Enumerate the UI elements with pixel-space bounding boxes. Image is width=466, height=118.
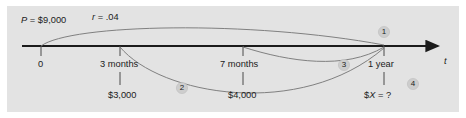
badge-label-1: 1	[379, 28, 389, 36]
badge-label-3: 3	[339, 61, 349, 69]
rate-label: r = .04	[92, 13, 119, 22]
tick-label-7-months: 7 months	[220, 60, 258, 69]
rate-value: .04	[106, 12, 119, 22]
cash-flow-timeline-figure: P = $9,000 r = .04 0 3 months 7 months 1…	[0, 0, 466, 118]
rate-symbol: r	[92, 12, 95, 22]
tick-label-0: 0	[38, 60, 43, 69]
arc-3-7-months-to-1-year	[243, 47, 384, 61]
amount-3-months: $3,000	[108, 91, 136, 100]
badge-label-4: 4	[408, 80, 418, 88]
tick-label-1-year: 1 year	[368, 60, 394, 69]
badge-label-2: 2	[177, 84, 187, 92]
principal-value: $9,000	[38, 15, 66, 25]
unknown-symbol: X	[369, 90, 375, 100]
amount-1-year: $X = ?	[364, 91, 391, 100]
amount-7-months: $4,000	[228, 91, 256, 100]
tick-label-3-months: 3 months	[100, 60, 138, 69]
principal-label: P = $9,000	[21, 16, 66, 25]
principal-symbol: P	[21, 15, 27, 25]
axis-label-t: t	[444, 57, 447, 66]
arc-1-principal-to-1-year	[41, 28, 384, 46]
